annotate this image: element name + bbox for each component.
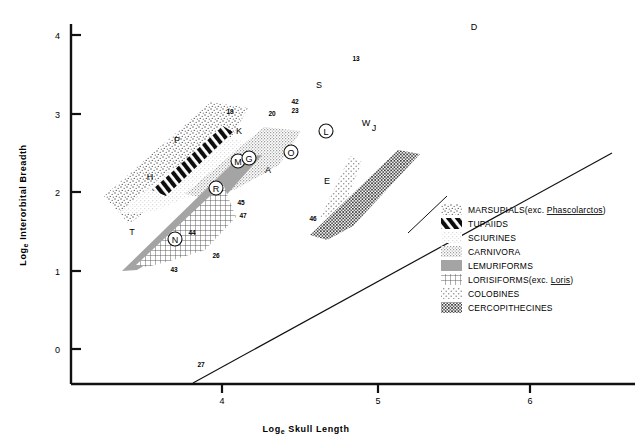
legend-suffix-close-marsupials: ) [603,205,606,215]
point-label-A: A [265,165,271,175]
legend-swatch-marsupials [441,204,462,215]
legend-swatch-sciurines [441,232,462,243]
chart-svg: 4 3 2 1 0 4 5 6 Loge Interorbital Breadt… [0,0,641,447]
legend-suffix-open-marsupials: (exc. [525,205,547,215]
circled-label-R: R [213,184,220,194]
x-tick-label-4: 4 [219,396,224,406]
num-label-27: 27 [197,361,205,368]
x-axis-title-rest: Skull Length [285,424,349,434]
circled-marker-G: G [242,151,256,165]
circled-label-O: O [287,148,294,158]
num-label-26: 26 [212,252,220,259]
figure-root: 4 3 2 1 0 4 5 6 Loge Interorbital Breadt… [0,0,641,447]
point-label-K: K [236,126,242,136]
y-axis-title: Loge Interorbital Breadth [18,144,29,265]
num-label-19: 19 [226,108,234,115]
x-tick-label-6: 6 [527,396,532,406]
num-label-13: 13 [352,55,360,62]
circled-marker-N: N [168,232,182,246]
legend-item-cercopithecines: CERCOPITHECINES [468,303,553,313]
legend-item-marsupials: MARSUPIALS(exc. Phascolarctos) [468,205,606,215]
point-label-T: T [129,227,135,237]
legend-item-colobines: COLOBINES [468,289,520,299]
circled-label-N: N [172,235,179,245]
legend-swatch-carnivora [441,246,462,257]
legend-swatch-lorisiforms [441,274,462,285]
legend-text-cercopithecines: CERCOPITHECINES [468,303,553,313]
num-label-42: 42 [291,98,299,105]
point-label-P: P [174,135,180,145]
circled-label-M: M [234,157,242,167]
circled-label-G: G [245,154,252,164]
legend-text-colobines: COLOBINES [468,289,520,299]
legend-swatch-colobines [441,288,462,299]
y-tick-label-4: 4 [55,31,60,41]
legend-suffix-open-lorisiforms: (exc. [529,275,551,285]
point-label-E: E [324,176,330,186]
group-polygon-cercopithecines [310,150,420,240]
point-label-W: W [362,118,371,128]
y-tick-labels: 4 3 2 1 0 [55,31,60,355]
legend-text-sciurines: SCIURINES [468,233,516,243]
legend-swatch-cercopithecines [441,302,462,313]
point-label-H: H [147,172,154,182]
num-label-47: 47 [239,212,247,219]
legend-suffix-italic-lorisiforms: Loris [551,275,570,285]
num-label-20: 20 [268,110,276,117]
svg-text:Loge Interorbital Breadth: Loge Interorbital Breadth [18,144,29,265]
legend-swatch-lemuriforms [441,260,462,271]
legend-swatch-tupaiids [441,218,462,229]
x-axis-title: Loge Skull Length [262,424,349,435]
num-label-44: 44 [188,229,196,236]
y-tick-label-1: 1 [55,267,60,277]
num-label-46: 46 [309,215,317,222]
legend-text-marsupials: MARSUPIALS [468,205,525,215]
y-tick-label-0: 0 [55,345,60,355]
point-label-J: J [372,123,377,133]
legend-text-lorisiforms: LORISIFORMS [468,275,529,285]
y-tick-label-3: 3 [55,110,60,120]
point-label-D: D [471,22,478,32]
x-axis-title-main: Log [262,424,280,434]
num-label-43: 43 [170,266,178,273]
point-label-S: S [316,80,322,90]
legend: MARSUPIALS(exc. Phascolarctos) TUPAIIDS … [441,204,606,313]
legend-text-tupaiids: TUPAIIDS [468,219,508,229]
legend-item-tupaiids: TUPAIIDS [468,219,508,229]
circled-marker-O: O [284,145,298,159]
svg-text:Loge Skull Length: Loge Skull Length [262,424,349,435]
legend-text-carnivora: CARNIVORA [468,247,520,257]
num-label-45: 45 [237,199,245,206]
circled-marker-L: L [319,124,333,138]
circled-marker-R: R [209,181,223,195]
x-tick-label-5: 5 [375,396,380,406]
legend-text-lemuriforms: LEMURIFORMS [468,261,533,271]
num-label-23: 23 [291,107,299,114]
legend-item-sciurines: SCIURINES [468,233,516,243]
y-tick-label-2: 2 [55,188,60,198]
y-axis-title-main: Log [18,247,28,265]
legend-suffix-italic-marsupials: Phascolarctos [547,205,603,215]
circled-label-L: L [323,127,328,137]
legend-suffix-close-lorisiforms: ) [570,275,573,285]
x-tick-labels: 4 5 6 [219,396,532,406]
legend-item-lorisiforms: LORISIFORMS(exc. Loris) [468,275,573,285]
legend-item-lemuriforms: LEMURIFORMS [468,261,533,271]
legend-item-carnivora: CARNIVORA [468,247,520,257]
isometry-line [193,153,612,383]
y-axis-title-rest: Interorbital Breadth [18,144,28,243]
